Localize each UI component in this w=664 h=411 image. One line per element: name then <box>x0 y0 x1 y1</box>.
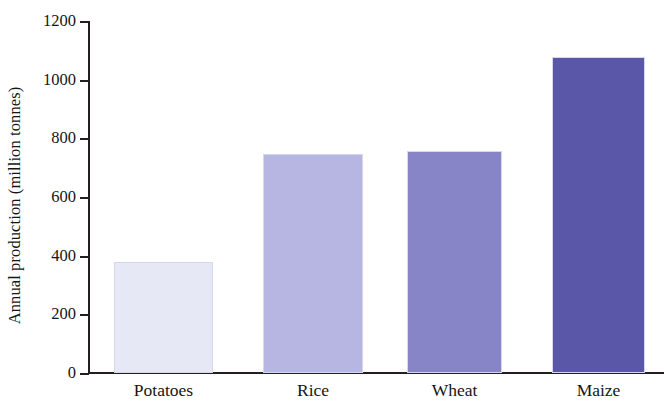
y-tick-mark <box>80 314 89 316</box>
x-tick-label-rice: Rice <box>263 379 363 402</box>
y-tick-mark <box>80 138 89 140</box>
y-tick-mark <box>80 21 89 23</box>
bar-fill <box>263 154 363 373</box>
y-tick-label: 800 <box>4 130 76 147</box>
x-tick-label-maize: Maize <box>552 379 645 402</box>
x-tick-label-potatoes: Potatoes <box>114 379 213 402</box>
bar-wheat <box>407 151 502 373</box>
y-tick-label: 1200 <box>4 13 76 30</box>
y-tick-mark <box>80 256 89 258</box>
bar-fill <box>407 151 502 373</box>
bar-chart: Annual production (million tonnes) 02004… <box>0 0 664 411</box>
y-tick-label: 0 <box>4 365 76 382</box>
bar-rice <box>263 154 363 373</box>
bar-fill <box>552 57 645 373</box>
y-axis-title: Annual production (million tonnes) <box>0 0 30 411</box>
y-tick-label: 200 <box>4 306 76 323</box>
y-tick-label: 1000 <box>4 72 76 89</box>
y-tick-label: 400 <box>4 248 76 265</box>
y-tick-mark <box>80 373 89 375</box>
y-tick-mark <box>80 197 89 199</box>
plot-area <box>89 21 664 373</box>
x-tick-label-wheat: Wheat <box>407 379 502 402</box>
y-tick-mark <box>80 80 89 82</box>
bar-fill <box>114 262 213 373</box>
y-tick-label: 600 <box>4 189 76 206</box>
bar-maize <box>552 57 645 373</box>
bar-potatoes <box>114 262 213 373</box>
